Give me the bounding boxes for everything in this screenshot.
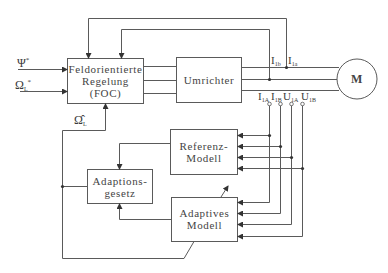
foc-label-line2: Regelung <box>67 75 144 87</box>
adaptions-label-line2: gesetz <box>87 187 153 199</box>
foc-label-line3: (FOC) <box>67 87 144 99</box>
adaptives-label-line2: Modell <box>171 219 238 231</box>
adaptionsgesetz-label: Adaptions- gesetz <box>87 175 153 199</box>
referenz-label-line2: Modell <box>170 152 238 164</box>
adaptions-label-line1: Adaptions- <box>87 175 153 187</box>
u1B-label: U1B <box>301 90 316 103</box>
omega-ref-label: ΩL* <box>15 78 31 93</box>
i1A-label: I1A <box>258 90 269 103</box>
referenz-label-line1: Referenz- <box>170 140 238 152</box>
motor-label: M <box>337 73 377 85</box>
umrichter-label: Umrichter <box>176 74 242 86</box>
omega-hat-label: Ω̂L <box>74 113 87 128</box>
foc-label: Feldorientierte Regelung (FOC) <box>67 63 144 99</box>
adaptives-modell-label: Adaptives Modell <box>171 207 238 231</box>
foc-label-line1: Feldorientierte <box>67 63 144 75</box>
i1b-label: I1b <box>271 54 281 67</box>
i1a-label: I1a <box>288 54 297 67</box>
i1B-label: I1B <box>271 90 282 103</box>
adaptives-label-line1: Adaptives <box>171 207 238 219</box>
u1A-label: U1A <box>283 90 298 103</box>
psi-ref-label: Ψ* <box>17 56 29 71</box>
referenz-modell-label: Referenz- Modell <box>170 140 238 164</box>
diagram-canvas <box>0 0 388 273</box>
